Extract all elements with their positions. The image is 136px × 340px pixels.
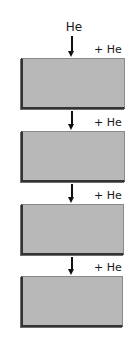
down-arrow-icon — [71, 257, 73, 276]
stage-3-box — [21, 204, 124, 255]
stage-2-add-label: + He — [94, 117, 130, 129]
down-arrow-icon — [71, 184, 73, 204]
stage-2-box — [21, 131, 125, 182]
stage-1-box — [21, 58, 125, 109]
stage-3-add-label: + He — [94, 190, 130, 202]
stage-1-add-label: + He — [94, 44, 130, 56]
stage-4-box — [21, 276, 123, 327]
down-arrow-icon — [71, 111, 73, 131]
down-arrow-icon — [71, 36, 73, 58]
stage-4-add-label: + He — [94, 262, 130, 274]
input-label-he: He — [62, 20, 86, 34]
